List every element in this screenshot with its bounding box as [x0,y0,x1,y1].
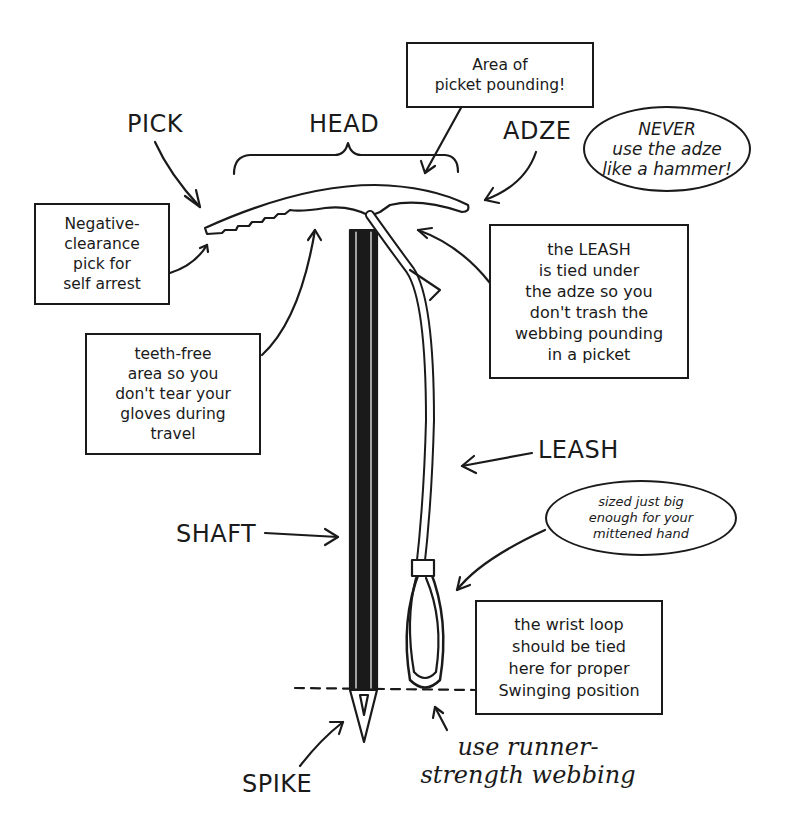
negative-clearance-arrow [170,245,207,273]
sized-loop-arrow [457,530,545,590]
swing-position-line [295,688,475,690]
axe-shaft [350,230,377,690]
adze-arrow [485,152,536,200]
label-pick: PICK [127,110,183,138]
leash-webbing [370,215,430,570]
label-leash: LEASH [538,436,619,464]
callout-leash-tied: the LEASH is tied under the adze so you … [489,224,689,379]
callout-teeth-free: teeth-free area so you don't tear your g… [85,333,261,455]
callout-negative-clearance: Negative- clearance pick for self arrest [34,203,170,305]
label-adze: ADZE [503,117,572,145]
leash-tied-arrow [418,230,490,283]
label-shaft: SHAFT [176,520,256,548]
pick-arrow [155,142,200,207]
callout-never-adze: NEVER use the adze like a hammer! [583,106,751,192]
leash-arrow [462,453,532,466]
teeth-free-arrow [262,230,315,355]
callout-sized-loop: sized just big enough for your mittened … [545,480,737,556]
axe-spike [350,690,377,742]
callout-wrist-loop: the wrist loop should be tied here for p… [475,600,663,715]
label-spike: SPIKE [242,770,312,798]
label-head: HEAD [309,110,379,138]
callout-picket-pounding: Area of picket pounding! [406,42,594,108]
shaft-arrow [265,533,338,537]
axe-head [205,185,468,234]
callout-runner-webbing: use runner- strength webbing [388,733,668,789]
spike-arrow [300,722,343,766]
